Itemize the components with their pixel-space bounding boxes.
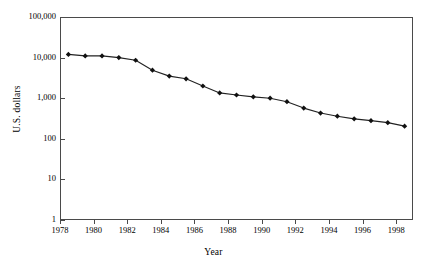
x-tick-mark bbox=[329, 220, 330, 224]
y-tick-mark bbox=[60, 179, 65, 180]
x-tick-mark bbox=[60, 220, 61, 224]
x-tick-label: 1992 bbox=[287, 226, 304, 235]
x-tick-label: 1986 bbox=[186, 226, 203, 235]
x-tick-mark bbox=[363, 220, 364, 224]
x-tick-label: 1980 bbox=[85, 226, 102, 235]
y-tick-label: 100 bbox=[0, 134, 56, 143]
y-tick-label: 1 bbox=[0, 215, 56, 224]
x-tick-mark bbox=[127, 220, 128, 224]
x-tick-mark bbox=[94, 220, 95, 224]
x-tick-mark bbox=[161, 220, 162, 224]
y-tick-mark bbox=[60, 139, 65, 140]
y-tick-label: 10 bbox=[0, 174, 56, 183]
y-tick-label: 1,000 bbox=[0, 93, 56, 102]
x-tick-label: 1984 bbox=[152, 226, 169, 235]
x-tick-label: 1978 bbox=[52, 226, 69, 235]
log-line-chart: 100,00010,0001,000100101 197819801982198… bbox=[0, 0, 427, 273]
x-tick-mark bbox=[396, 220, 397, 224]
x-tick-label: 1994 bbox=[320, 226, 337, 235]
plot-area bbox=[60, 17, 413, 220]
x-tick-label: 1998 bbox=[388, 226, 405, 235]
x-tick-label: 1996 bbox=[354, 226, 371, 235]
x-tick-label: 1982 bbox=[119, 226, 136, 235]
x-tick-mark bbox=[295, 220, 296, 224]
y-tick-mark bbox=[60, 17, 65, 18]
y-tick-mark bbox=[60, 98, 65, 99]
x-tick-mark bbox=[194, 220, 195, 224]
y-tick-mark bbox=[60, 58, 65, 59]
x-axis-title: Year bbox=[0, 247, 427, 257]
x-tick-label: 1988 bbox=[220, 226, 237, 235]
x-tick-mark bbox=[262, 220, 263, 224]
x-tick-mark bbox=[228, 220, 229, 224]
y-tick-label: 10,000 bbox=[0, 53, 56, 62]
y-tick-label: 100,000 bbox=[0, 12, 56, 21]
x-tick-label: 1990 bbox=[253, 226, 270, 235]
y-axis-title: U.S. dollars bbox=[12, 64, 22, 154]
